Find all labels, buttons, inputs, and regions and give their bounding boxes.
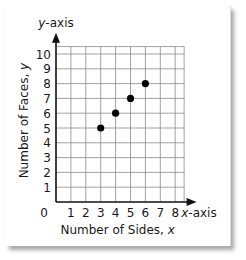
y-axis-arrow-icon <box>52 33 60 43</box>
x-tick-label: 3 <box>97 206 105 220</box>
y-tick-label: 4 <box>43 136 51 150</box>
x-tick-label: 8 <box>171 206 179 220</box>
data-point <box>127 95 134 102</box>
y-axis-name: y-axis <box>37 16 73 30</box>
x-axis-arrow-icon <box>187 198 197 206</box>
y-tick-label: 1 <box>43 181 51 195</box>
x-axis-name: x-axis <box>180 206 216 220</box>
scatter-chart: 12345678910012345678y-axisx-axisNumber o… <box>0 0 246 260</box>
y-tick-label: 2 <box>43 166 51 180</box>
y-tick-label: 9 <box>43 62 51 76</box>
data-point <box>112 110 119 117</box>
x-axis-title: Number of Sides, x <box>60 223 175 237</box>
x-tick-label: 4 <box>112 206 120 220</box>
y-tick-label: 6 <box>43 107 51 121</box>
data-point <box>97 124 104 131</box>
y-tick-label: 7 <box>43 92 51 106</box>
y-tick-label: 3 <box>43 151 51 165</box>
y-tick-label: 10 <box>36 48 51 62</box>
y-tick-label: 5 <box>43 122 51 136</box>
x-tick-label: 0 <box>40 206 48 220</box>
y-tick-label: 8 <box>43 77 51 91</box>
y-axis-title: Number of Faces, y <box>17 62 31 178</box>
x-tick-label: 1 <box>67 206 75 220</box>
x-tick-label: 2 <box>82 206 90 220</box>
x-tick-label: 5 <box>127 206 135 220</box>
x-tick-label: 7 <box>156 206 164 220</box>
data-point <box>142 80 149 87</box>
x-tick-label: 6 <box>142 206 150 220</box>
